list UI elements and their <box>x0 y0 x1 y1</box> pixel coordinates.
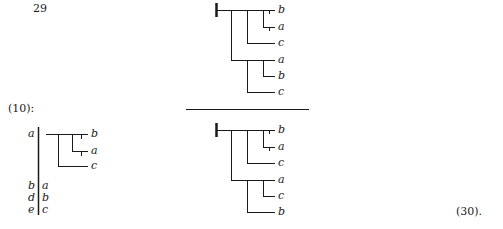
stem-label: a <box>28 128 35 139</box>
tree-leaf-label: a <box>91 145 98 156</box>
tree-leaf-label: b <box>278 206 285 217</box>
pair-right-label: c <box>42 204 48 215</box>
pair-right-label: a <box>42 180 49 191</box>
tree-leaf-label: c <box>278 190 284 201</box>
tree-leaf-label: b <box>278 124 285 135</box>
pair-left-label: e <box>28 204 35 215</box>
tree-leaf-label: a <box>278 21 285 32</box>
tree-leaf-label: c <box>91 160 97 171</box>
tree-leaf-label: b <box>278 4 285 15</box>
tree-leaf-label: c <box>278 86 284 97</box>
tree-leaf-label: b <box>278 70 285 81</box>
pair-left-label: b <box>28 180 35 191</box>
tree-leaf-label: a <box>278 54 285 65</box>
tree-leaf-label: c <box>278 157 284 168</box>
pair-right-label: b <box>42 192 49 203</box>
tree-leaf-label: a <box>278 174 285 185</box>
tree-diagrams <box>0 0 503 229</box>
tree-leaf-label: c <box>278 37 284 48</box>
tree-leaf-label: b <box>91 128 98 139</box>
tree-leaf-label: a <box>278 141 285 152</box>
pair-left-label: d <box>28 192 35 203</box>
